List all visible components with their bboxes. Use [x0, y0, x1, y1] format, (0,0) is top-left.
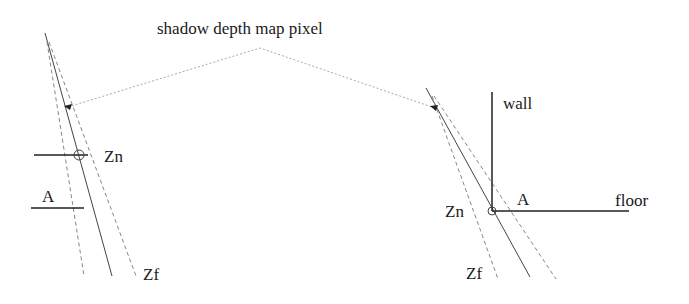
title-leader-lines [68, 48, 432, 107]
left-frustum-edge-2 [49, 42, 136, 276]
right-panel: wall floor A Zn Zf [426, 88, 648, 283]
right-label-wall: wall [503, 94, 533, 113]
right-frustum-edge-2 [434, 96, 556, 279]
left-frustum-edge-1 [47, 42, 84, 276]
left-label-zf: Zf [143, 265, 159, 284]
right-label-floor: floor [615, 191, 648, 210]
left-label-zn: Zn [104, 147, 123, 166]
left-label-a: A [42, 187, 55, 206]
right-light-ray [426, 88, 530, 277]
right-label-a: A [517, 190, 530, 209]
right-label-zn: Zn [445, 202, 464, 221]
left-panel: Zn A Zf [31, 33, 159, 284]
shadow-depth-diagram: shadow depth map pixel Zn A Zf [0, 0, 689, 304]
diagram-title: shadow depth map pixel [157, 19, 323, 38]
right-label-zf: Zf [466, 264, 482, 283]
right-frustum-edge-1 [432, 96, 498, 279]
